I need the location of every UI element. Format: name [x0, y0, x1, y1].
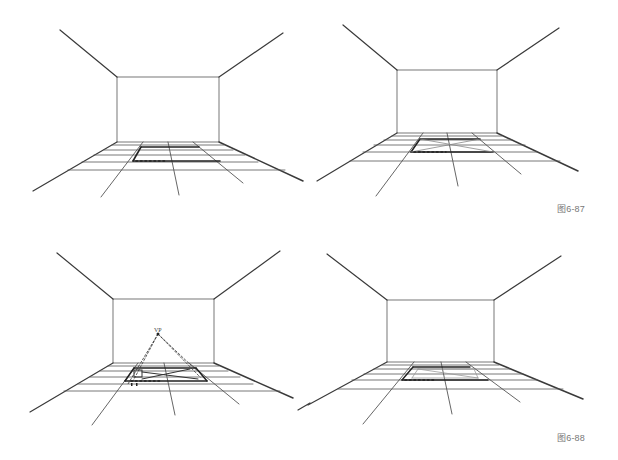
floor-right-edge [219, 142, 303, 181]
fragment-line [298, 403, 310, 410]
vp-label: VP [154, 327, 162, 333]
ceiling-right-edge [494, 256, 561, 300]
ceiling-right-edge [214, 251, 280, 299]
ceiling-left-edge [60, 30, 117, 77]
ceiling-left-edge [57, 253, 113, 299]
panel-room-grid-2 [317, 25, 578, 196]
figure-caption-6-87: 图6-87 [557, 202, 585, 215]
ceiling-left-edge [343, 25, 397, 70]
rug-inner-lines [412, 369, 478, 378]
back-wall [113, 299, 214, 363]
ceiling-left-edge [327, 254, 387, 300]
floor-left-edge [30, 363, 113, 412]
back-wall [387, 300, 494, 362]
floor-radials [92, 363, 239, 425]
back-wall [397, 70, 497, 133]
floor-right-edge [494, 362, 583, 399]
perspective-drawing-canvas: VP [0, 0, 618, 460]
panel-room-grid-3 [30, 251, 310, 425]
panel-room-grid-4 [308, 254, 583, 424]
ceiling-right-edge [497, 28, 559, 70]
floor-left-edge [308, 362, 387, 405]
rug-diagonals [411, 139, 493, 152]
panel-room-grid-1 [33, 30, 303, 197]
floor-radials [376, 133, 521, 196]
floor-left-edge [33, 142, 117, 191]
figure-caption-6-88: 图6-88 [557, 431, 585, 444]
measure-ticks [131, 383, 138, 386]
ceiling-right-edge [219, 33, 283, 77]
floor-radials [363, 362, 520, 424]
back-wall [117, 77, 219, 142]
